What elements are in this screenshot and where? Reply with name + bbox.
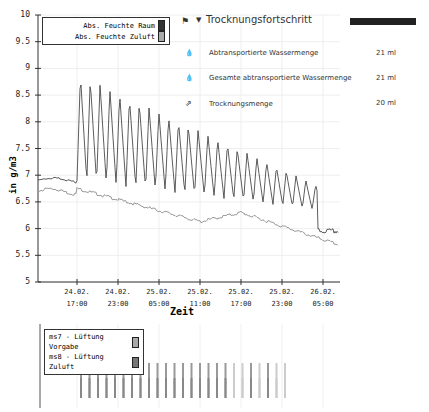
panel-title: Trocknungsfortschritt [206, 14, 312, 25]
export-icon: ⇗ [185, 99, 203, 108]
collapse-toggle[interactable]: ▼ [196, 16, 201, 24]
legend-swatch-zuluft [158, 31, 165, 42]
y-tick-label: 6 [8, 224, 30, 233]
legend-label-zuluft-lueftung: ms8 - Lüftung Zuluft [49, 352, 129, 372]
x-tick-label: 26.02.05:00 [303, 286, 343, 310]
y-tick-label: 10 [8, 10, 30, 19]
y-tick-label: 5 [8, 277, 30, 286]
ventilation-legend: ms7 - Lüftung Vorgabe ms8 - Lüftung Zulu… [44, 329, 144, 375]
chart-legend: Abs. Feuchte Raum Abs. Feuchte Zuluft [42, 17, 170, 45]
droplet-icon: 💧 [185, 49, 203, 57]
row-label: Trocknungsmenge [209, 100, 273, 108]
x-tick-label: 25.02.23:00 [262, 286, 302, 310]
y-axis-label: in g/m3 [8, 150, 18, 200]
legend-label-vorgabe: ms7 - Lüftung Vorgabe [49, 332, 129, 352]
progress-bar [350, 18, 416, 25]
y-tick-label: 9.5 [8, 37, 30, 46]
row-value: 21 ml [376, 49, 396, 57]
legend-label-zuluft: Abs. Feuchte Zuluft [75, 32, 155, 42]
ventilation-chart: ms7 - Lüftung Vorgabe ms8 - Lüftung Zulu… [0, 320, 345, 412]
y-tick-label: 9 [8, 63, 30, 72]
legend-label-raum: Abs. Feuchte Raum [83, 21, 155, 31]
droplet-icon: 💧 [185, 74, 203, 82]
row-value: 20 ml [376, 99, 396, 107]
y-tick-label: 8.5 [8, 90, 30, 99]
x-tick-label: 25.02.17:00 [221, 286, 261, 310]
legend-swatch-zuluft-lueftung [132, 357, 139, 368]
x-tick-label: 24.02.23:00 [98, 286, 138, 310]
legend-swatch-raum [158, 20, 165, 31]
row-label: Abtransportierte Wassermenge [209, 49, 318, 57]
drying-progress-panel: ⚑ ▼ Trocknungsfortschritt 💧 Abtransporti… [175, 10, 429, 90]
y-tick-label: 5.5 [8, 250, 30, 259]
flag-icon: ⚑ [181, 16, 189, 26]
row-label: Gesamte abtransportierte Wassermenge [209, 74, 352, 82]
panel-row-abtransport: 💧 Abtransportierte Wassermenge [185, 49, 318, 57]
y-tick-label: 8 [8, 117, 30, 126]
legend-swatch-vorgabe [132, 337, 139, 348]
panel-row-gesamt: 💧 Gesamte abtransportierte Wassermenge [185, 74, 352, 82]
row-value: 21 ml [376, 74, 396, 82]
x-axis-label: Zeit [170, 306, 194, 317]
panel-row-trocknungsmenge: ⇗ Trocknungsmenge [185, 99, 273, 108]
x-tick-label: 24.02.17:00 [57, 286, 97, 310]
